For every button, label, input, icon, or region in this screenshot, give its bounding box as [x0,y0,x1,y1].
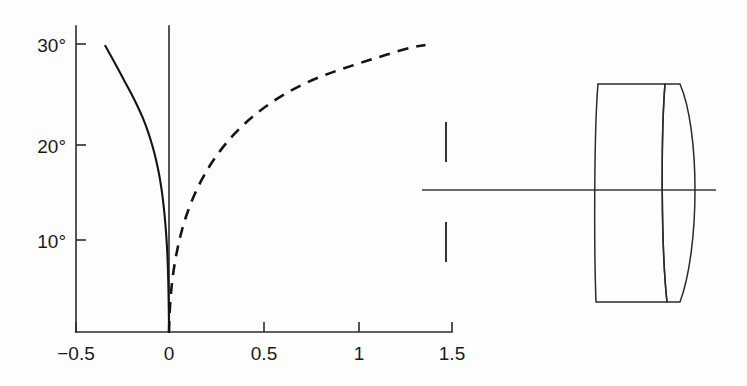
y-tick-label-10: 10° [37,231,66,252]
figure-canvas: 30° 20° 10° −0.5 0 0.5 1 1.5 [0,0,747,386]
x-tick-label-0: 0 [164,343,175,364]
x-tick-label-1p5: 1.5 [439,343,465,364]
plot-tick-labels: 30° 20° 10° −0.5 0 0.5 1 1.5 [37,35,465,364]
y-tick-label-20: 20° [37,136,66,157]
x-tick-label-neg0p5: −0.5 [57,343,95,364]
lens-diagram [422,84,716,302]
front-element-outline [595,84,667,302]
plot-curves [105,45,425,332]
solid-curve [105,46,169,332]
x-tick-label-1: 1 [354,343,365,364]
x-tick-label-0p5: 0.5 [251,343,277,364]
optical-figure: 30° 20° 10° −0.5 0 0.5 1 1.5 [0,0,747,386]
rear-element-outline [662,84,695,302]
dashed-curve [169,45,426,332]
plot-axes [76,26,452,332]
y-tick-label-30: 30° [37,35,66,56]
